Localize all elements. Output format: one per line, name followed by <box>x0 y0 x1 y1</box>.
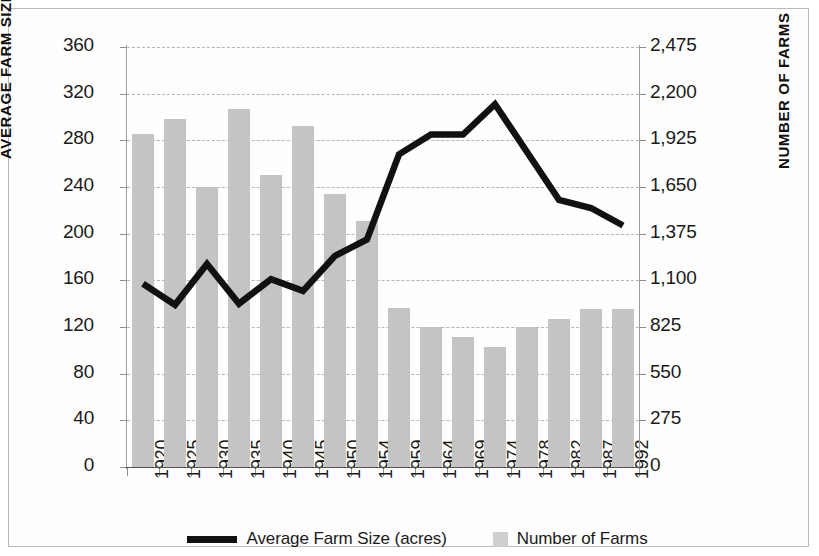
y-axis-right-tick <box>639 420 646 421</box>
y-axis-left-tick-label: 200 <box>63 221 94 243</box>
y-axis-right-tick <box>639 140 646 141</box>
y-axis-right-tick-label: 275 <box>650 407 681 429</box>
y-axis-right-tick <box>639 374 646 375</box>
y-axis-left-tick-label: 360 <box>63 34 94 56</box>
chart-frame: AVERAGE FARM SIZE (ACRES) NUMBER OF FARM… <box>8 8 809 547</box>
y-axis-right-line <box>639 45 640 469</box>
legend-item-average-farm-size: Average Farm Size (acres) <box>187 529 446 549</box>
y-axis-right-tick <box>639 47 646 48</box>
y-axis-left-tick-label: 280 <box>63 127 94 149</box>
y-axis-right-tick-label: 550 <box>650 361 681 383</box>
y-axis-left-tick-label: 40 <box>73 407 94 429</box>
x-axis-tick <box>127 468 128 476</box>
y-axis-right-tick <box>639 280 646 281</box>
y-axis-right-tick <box>639 94 646 95</box>
legend-line-marker-icon <box>187 536 237 543</box>
legend-item-number-of-farms: Number of Farms <box>493 529 648 549</box>
line-path-average-farm-size <box>127 47 639 467</box>
y-axis-right-tick-label: 2,200 <box>650 81 697 103</box>
y-axis-left-tick-label: 320 <box>63 81 94 103</box>
y-axis-left-tick-label: 120 <box>63 314 94 336</box>
chart-figure: AVERAGE FARM SIZE (ACRES) NUMBER OF FARM… <box>0 0 819 556</box>
y-axis-left-tick-label: 80 <box>73 361 94 383</box>
y-axis-right-tick <box>639 187 646 188</box>
y-axis-left-tick-label: 240 <box>63 174 94 196</box>
y-axis-right-tick-label: 2,475 <box>650 34 697 56</box>
y-axis-right-title: NUMBER OF FARMS <box>775 0 792 169</box>
y-axis-right-tick-label: 1,925 <box>650 127 697 149</box>
y-axis-right-tick-label: 1,375 <box>650 221 697 243</box>
y-axis-right-tick-label: 1,650 <box>650 174 697 196</box>
y-axis-left-tick-label: 160 <box>63 267 94 289</box>
y-axis-right-tick <box>639 327 646 328</box>
x-axis-line <box>126 467 640 468</box>
y-axis-left-title: AVERAGE FARM SIZE (ACRES) <box>0 0 14 159</box>
y-axis-right-tick-label: 825 <box>650 314 681 336</box>
legend-swatch-marker-icon <box>493 532 508 547</box>
y-axis-right-tick-label: 1,100 <box>650 267 697 289</box>
y-axis-left-tick-label: 0 <box>84 454 94 476</box>
legend-label-number-of-farms: Number of Farms <box>517 529 648 549</box>
line-series-average-farm-size <box>127 47 639 467</box>
legend-label-average-farm-size: Average Farm Size (acres) <box>246 529 446 549</box>
y-axis-right-tick <box>639 234 646 235</box>
chart-legend: Average Farm Size (acres) Number of Farm… <box>17 522 818 556</box>
